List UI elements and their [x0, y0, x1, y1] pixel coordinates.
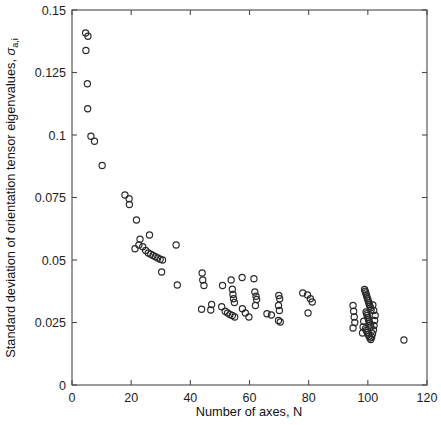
data-point	[83, 47, 89, 53]
data-point	[219, 282, 225, 288]
data-point	[277, 319, 283, 325]
data-point	[305, 310, 311, 316]
y-axis-title: Standard deviation of orientation tensor…	[3, 38, 20, 358]
x-tick-label: 60	[243, 391, 257, 405]
data-point	[99, 162, 105, 168]
y-tick-label: 0.05	[42, 254, 66, 268]
data-point	[350, 325, 356, 331]
y-tick-label: 0.125	[35, 66, 66, 80]
data-point	[199, 270, 205, 276]
x-tick-label: 120	[417, 391, 438, 405]
data-point	[91, 138, 97, 144]
x-tick-label: 80	[302, 391, 316, 405]
data-point	[159, 269, 165, 275]
data-points	[83, 30, 408, 343]
data-point	[252, 302, 258, 308]
data-point	[133, 217, 139, 223]
sigma-subscript: a,i	[10, 38, 20, 48]
data-point	[84, 81, 90, 87]
data-point	[146, 232, 152, 238]
y-axis-tick-labels: 00.0250.050.0750.10.1250.15	[35, 4, 66, 393]
data-point	[136, 242, 142, 248]
y-tick-label: 0.1	[49, 129, 66, 143]
y-tick-label: 0.15	[42, 4, 66, 18]
data-point	[173, 242, 179, 248]
data-point	[275, 317, 281, 323]
y-tick-label: 0.075	[35, 191, 66, 205]
data-point	[132, 246, 138, 252]
data-point	[228, 277, 234, 283]
figure-container: 020406080100120 00.0250.050.0750.10.1250…	[0, 0, 441, 425]
scatter-plot: 020406080100120 00.0250.050.0750.10.1250…	[0, 0, 441, 425]
data-point	[174, 282, 180, 288]
x-tick-label: 20	[124, 391, 138, 405]
x-axis-tick-labels: 020406080100120	[69, 391, 438, 405]
data-point	[251, 276, 257, 282]
data-point	[137, 236, 143, 242]
x-axis-title: Number of axes, N	[196, 404, 303, 419]
data-point	[198, 306, 204, 312]
x-tick-label: 100	[357, 391, 378, 405]
data-point	[85, 106, 91, 112]
y-axis-title-text: Standard deviation of orientation tensor…	[3, 55, 18, 357]
y-tick-label: 0	[59, 379, 66, 393]
y-tick-label: 0.025	[35, 316, 66, 330]
data-point	[231, 299, 237, 305]
data-point	[401, 337, 407, 343]
data-point	[246, 314, 252, 320]
data-point	[252, 289, 258, 295]
x-tick-label: 0	[69, 391, 76, 405]
data-point	[239, 274, 245, 280]
x-tick-label: 40	[183, 391, 197, 405]
